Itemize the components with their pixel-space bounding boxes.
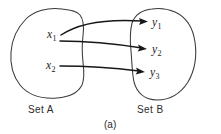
element-label-y2: y2 — [151, 43, 162, 58]
arrow-x1-to-y1 — [61, 18, 148, 35]
diagram-canvas: x1 x2 y1 y2 y3 Set A Set B (a) — [0, 0, 221, 134]
arrow-x1-to-y2 — [60, 41, 147, 52]
set-mapping-figure: x1 x2 y1 y2 y3 Set A Set B (a) — [0, 0, 221, 134]
element-label-x2: x2 — [45, 59, 56, 74]
set-a-outline — [11, 8, 84, 98]
element-label-y1: y1 — [151, 16, 162, 31]
set-a-label: Set A — [28, 104, 54, 115]
set-b-label: Set B — [137, 104, 163, 115]
figure-caption: (a) — [104, 119, 116, 130]
element-label-x1: x1 — [46, 28, 57, 43]
arrow-x2-to-y3-line — [60, 66, 139, 71]
element-label-y3: y3 — [149, 66, 160, 81]
arrow-x1-to-y2-line — [60, 41, 142, 48]
